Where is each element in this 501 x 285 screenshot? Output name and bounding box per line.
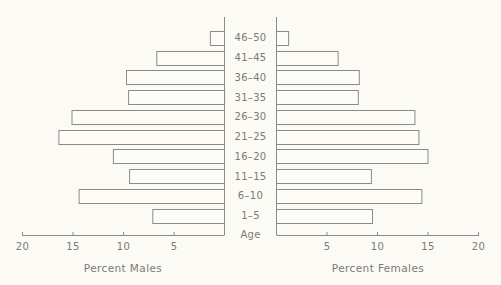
age-label-16-20: 16–20: [235, 151, 267, 162]
left-tick-label-20: 20: [16, 241, 29, 252]
male-bar-1-5: [153, 210, 225, 224]
female-bar-6-10: [277, 190, 422, 204]
left-tick-label-15: 15: [66, 241, 79, 252]
right-tick-label-5: 5: [324, 241, 331, 252]
left-axis-title: Percent Males: [84, 262, 162, 274]
age-axis-label: Age: [240, 229, 260, 240]
female-bar-16-20: [277, 150, 429, 164]
female-bar-41-45: [277, 52, 339, 66]
age-label-36-40: 36–40: [235, 72, 267, 83]
male-bar-41-45: [157, 52, 225, 66]
male-bar-11-15: [130, 170, 225, 184]
male-bar-31-35: [129, 91, 225, 105]
male-bar-16-20: [113, 150, 224, 164]
male-bars: [59, 32, 225, 224]
male-bar-26-30: [72, 111, 225, 125]
age-label-31-35: 31–35: [235, 92, 267, 103]
right-tick-label-15: 15: [421, 241, 434, 252]
female-bar-11-15: [277, 170, 372, 184]
male-bar-36-40: [127, 71, 225, 85]
male-bar-46-50: [210, 32, 224, 46]
age-label-6-10: 6–10: [238, 190, 263, 201]
female-bar-21-25: [277, 131, 419, 145]
female-bar-26-30: [277, 111, 415, 125]
female-bar-46-50: [277, 32, 289, 46]
left-tick-label-10: 10: [117, 241, 130, 252]
population-pyramid-chart: 1–56–1011–1516–2021–2526–3031–3536–4041–…: [0, 0, 501, 285]
male-bar-21-25: [59, 131, 225, 145]
female-bar-1-5: [277, 210, 373, 224]
right-tick-label-20: 20: [472, 241, 485, 252]
left-tick-label-5: 5: [171, 241, 178, 252]
female-bar-31-35: [277, 91, 359, 105]
right-axis-title: Percent Females: [332, 262, 424, 274]
male-bar-6-10: [79, 190, 224, 204]
age-label-11-15: 11–15: [235, 171, 267, 182]
female-bars: [277, 32, 429, 224]
age-label-1-5: 1–5: [241, 210, 260, 221]
age-label-46-50: 46–50: [235, 32, 267, 43]
age-label-21-25: 21–25: [235, 131, 267, 142]
age-label-26-30: 26–30: [235, 111, 267, 122]
age-labels: 1–56–1011–1516–2021–2526–3031–3536–4041–…: [235, 32, 267, 221]
female-bar-36-40: [277, 71, 360, 85]
right-tick-label-10: 10: [371, 241, 384, 252]
age-label-41-45: 41–45: [235, 52, 267, 63]
